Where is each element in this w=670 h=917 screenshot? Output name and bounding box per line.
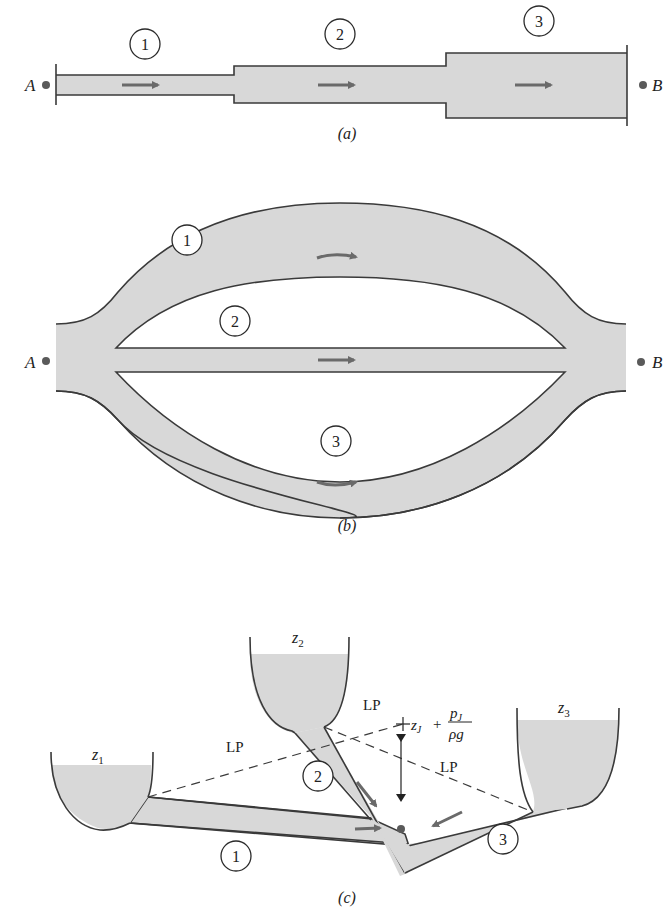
- caption-b: (b): [338, 517, 357, 535]
- flow-arrow-icon: [433, 812, 462, 826]
- pipe-2-badge: 2: [220, 306, 250, 336]
- reservoir-1-label: z1: [91, 746, 104, 766]
- pipe-network-figure: A B 1 2 3 (a) A B 1: [0, 0, 670, 917]
- svg-text:1: 1: [183, 232, 191, 249]
- pipe-3-badge: 3: [321, 426, 351, 456]
- caption-a: (a): [338, 125, 357, 143]
- pipe-1-badge: 1: [221, 841, 251, 871]
- svg-text:3: 3: [535, 13, 543, 30]
- svg-text:zJ: zJ: [410, 717, 422, 735]
- svg-text:1: 1: [232, 848, 240, 865]
- svg-text:+: +: [433, 716, 441, 732]
- node-a-dot: [42, 357, 50, 365]
- svg-text:pJ: pJ: [449, 705, 463, 723]
- pipe-2-badge: 2: [325, 19, 355, 49]
- node-a-label: A: [24, 76, 36, 95]
- parallel-pipes-diagram: A B 1 2 3 (b): [24, 203, 663, 535]
- pipe-1-badge: 1: [130, 29, 160, 59]
- pipe-1-badge: 1: [172, 225, 202, 255]
- lp-label-1: LP: [226, 739, 244, 755]
- flow-arrow-icon: [355, 828, 380, 829]
- svg-text:2: 2: [231, 313, 239, 330]
- node-b-label: B: [652, 76, 663, 95]
- lp-label-2: LP: [363, 697, 381, 713]
- junction-dot: [397, 825, 405, 833]
- svg-text:3: 3: [499, 831, 507, 848]
- lp-label-3: LP: [440, 759, 458, 775]
- node-a-label: A: [24, 353, 36, 372]
- junction-head-expression: zJ + pJ ρg: [410, 705, 472, 742]
- caption-c: (c): [338, 889, 356, 907]
- svg-text:2: 2: [336, 26, 344, 43]
- node-b-dot: [639, 81, 647, 89]
- pipe-3-badge: 3: [488, 824, 518, 854]
- node-a-dot: [42, 81, 50, 89]
- reservoir-2-label: z2: [291, 629, 304, 649]
- svg-text:3: 3: [332, 433, 340, 450]
- pipe-3-badge: 3: [524, 6, 554, 36]
- pipe-2-badge: 2: [303, 761, 333, 791]
- node-b-label: B: [652, 353, 663, 372]
- svg-text:2: 2: [314, 768, 322, 785]
- reservoir-3-label: z3: [557, 699, 570, 719]
- node-b-dot: [637, 358, 645, 366]
- three-reservoir-diagram: z1 z2 z3 LP LP LP zJ + pJ ρg 1 2 3 (c): [51, 629, 619, 907]
- svg-text:1: 1: [141, 36, 149, 53]
- series-pipes-diagram: A B 1 2 3 (a): [24, 6, 663, 143]
- svg-text:ρg: ρg: [448, 726, 464, 742]
